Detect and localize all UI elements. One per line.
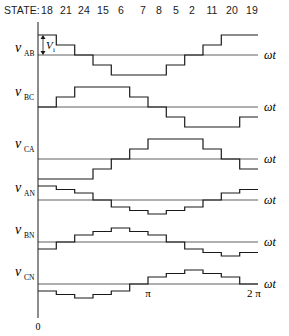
pi-label: π <box>145 287 151 299</box>
label-sub-vBC: BC <box>24 93 34 102</box>
waveform-vCA: vCAωt <box>15 136 276 179</box>
origin-label: 0 <box>36 321 41 332</box>
label-vAN: v <box>15 180 22 195</box>
label-sub-vAB: AB <box>24 49 34 58</box>
waveform-vBN: vBNωt <box>15 222 276 256</box>
arrow-down-icon <box>41 51 46 55</box>
vi-subscript: i <box>53 46 55 54</box>
vi-annotation: V i <box>41 35 56 55</box>
two-pi-label: 2 π <box>247 287 261 299</box>
omega-t-label: ωt <box>264 48 276 62</box>
waveform-vBC: vBCωt <box>15 84 276 127</box>
waveforms: vABωtvBCωtvCAωtvANωtvBNωtvCNωt <box>15 35 276 298</box>
omega-t-label: ωt <box>264 100 276 114</box>
omega-t-label: ωt <box>264 235 276 249</box>
label-sub-vCN: CN <box>24 273 35 282</box>
label-vCA: v <box>15 136 22 151</box>
waveform-vAN: vANωt <box>15 180 276 214</box>
label-sub-vBN: BN <box>24 231 35 240</box>
label-vBN: v <box>15 222 22 237</box>
label-vBC: v <box>15 84 22 99</box>
label-sub-vCA: CA <box>24 145 35 154</box>
omega-t-label: ωt <box>264 193 276 207</box>
omega-t-label: ωt <box>264 277 276 291</box>
omega-t-label: ωt <box>264 152 276 166</box>
waveform-diagram: vABωtvBCωtvCAωtvANωtvBNωtvCNωt V i π 2 π… <box>0 0 289 336</box>
label-sub-vAN: AN <box>24 189 35 198</box>
label-vCN: v <box>15 264 22 279</box>
waveform-vAB: vABωt <box>15 35 276 75</box>
label-vAB: v <box>15 40 22 55</box>
